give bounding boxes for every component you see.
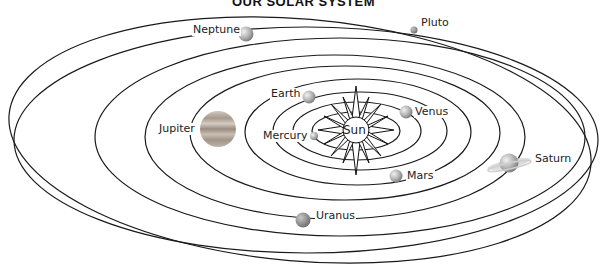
label-earth: Earth [270,88,302,100]
label-venus: Venus [414,106,449,118]
planet-jupiter [200,111,236,147]
label-sun: Sun [342,124,367,136]
solar-system-diagram: OUR SOLAR SYSTEM [0,0,607,275]
label-neptune: Neptune [192,24,241,36]
planet-venus [400,106,413,119]
planet-mars [390,170,403,183]
planet-earth [303,91,316,104]
planet-uranus [296,213,311,228]
planet-saturn [487,154,532,174]
label-saturn: Saturn [534,153,572,165]
planet-pluto [411,27,418,34]
label-mars: Mars [406,170,435,182]
label-pluto: Pluto [420,17,450,29]
planet-mercury [310,132,318,140]
label-uranus: Uranus [315,210,356,222]
label-mercury: Mercury [262,130,309,142]
label-jupiter: Jupiter [158,123,196,135]
